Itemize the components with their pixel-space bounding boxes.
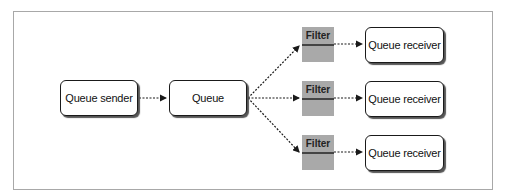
filter-node: Filter [302,81,334,116]
queue-receiver-node: Queue receiver [365,81,444,117]
filter-label: Filter [302,30,334,41]
filter-node: Filter [302,27,334,62]
filter-label: Filter [302,138,334,149]
queue-receiver-label: Queue receiver [368,93,440,105]
queue-sender-label: Queue sender [65,92,132,104]
filter-label: Filter [302,84,334,95]
queue-receiver-label: Queue receiver [368,147,440,159]
queue-node: Queue [169,80,247,116]
filter-line [302,98,334,100]
queue-receiver-node: Queue receiver [365,135,444,171]
filter-line [302,152,334,154]
queue-sender-node: Queue sender [60,80,138,116]
queue-label: Queue [192,92,224,104]
filter-line [302,44,334,46]
queue-receiver-node: Queue receiver [365,27,444,63]
filter-node: Filter [302,135,334,170]
queue-receiver-label: Queue receiver [368,39,440,51]
